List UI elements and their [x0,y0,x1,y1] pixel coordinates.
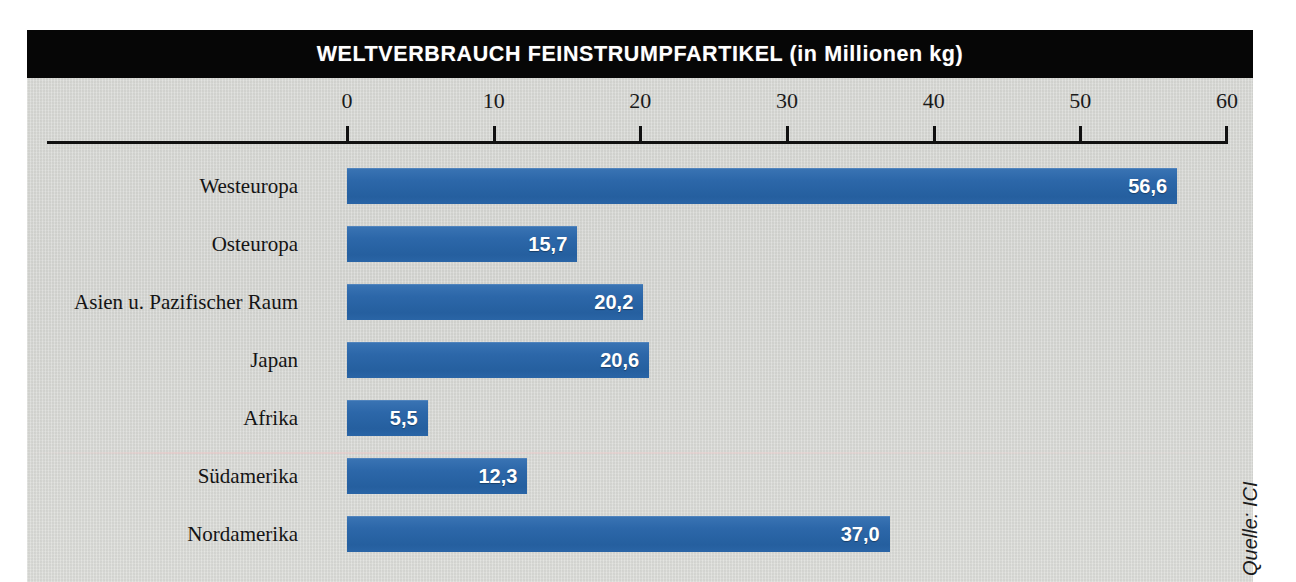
bar-row: Afrika5,5 [27,389,1253,447]
bar-value-label: 37,0 [841,523,880,546]
x-axis-tick-20 [639,126,642,142]
bar-row: Nordamerika37,0 [27,505,1253,563]
category-label: Südamerika [198,464,298,489]
bar[interactable]: 20,6 [347,342,649,378]
bar-row: Osteuropa15,7 [27,215,1253,273]
x-axis-tick-10 [493,126,496,142]
x-axis-tick-0 [346,126,349,142]
bar-value-label: 5,5 [390,407,418,430]
bar-value-label: 20,6 [600,349,639,372]
bar[interactable]: 12,3 [347,458,527,494]
chart-figure: WELTVERBRAUCH FEINSTRUMPFARTIKEL (in Mil… [0,0,1296,582]
bar[interactable]: 5,5 [347,400,428,436]
x-axis-tick-label-60: 60 [1216,88,1238,114]
category-label: Afrika [243,406,298,431]
category-label: Nordamerika [187,522,298,547]
bar-value-label: 15,7 [528,233,567,256]
chart-title-bar: WELTVERBRAUCH FEINSTRUMPFARTIKEL (in Mil… [27,30,1253,78]
bar-value-label: 12,3 [478,465,517,488]
bar[interactable]: 15,7 [347,226,577,262]
x-axis-tick-30 [786,126,789,142]
bar-row: Japan20,6 [27,331,1253,389]
category-label: Osteuropa [212,232,298,257]
bar-row: Westeuropa56,6 [27,157,1253,215]
x-axis-tick-40 [933,126,936,142]
bar-row: Asien u. Pazifischer Raum20,2 [27,273,1253,331]
x-axis-tick-label-50: 50 [1069,88,1091,114]
x-axis-tick-label-40: 40 [923,88,945,114]
bar-row: Südamerika12,3 [27,447,1253,505]
category-label: Japan [250,348,298,373]
x-axis-tick-label-20: 20 [629,88,651,114]
bar-value-label: 20,2 [594,291,633,314]
x-axis-tick-label-0: 0 [342,88,353,114]
bar[interactable]: 20,2 [347,284,643,320]
x-axis-tick-label-10: 10 [483,88,505,114]
x-axis-tick-label-30: 30 [776,88,798,114]
bar[interactable]: 37,0 [347,516,890,552]
bar[interactable]: 56,6 [347,168,1177,204]
bar-value-label: 56,6 [1128,175,1167,198]
x-axis-line [47,141,1228,144]
category-label: Westeuropa [199,174,298,199]
x-axis-endcap [1225,126,1228,144]
source-note: Quelle: ICI [1239,482,1262,576]
x-axis-tick-50 [1079,126,1082,142]
category-label: Asien u. Pazifischer Raum [74,290,298,315]
page-title: WELTVERBRAUCH FEINSTRUMPFARTIKEL (in Mil… [317,42,964,67]
